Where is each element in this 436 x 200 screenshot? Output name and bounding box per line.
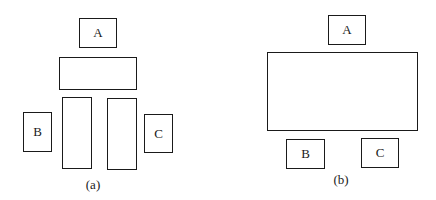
tall-rectangle-right [107,98,137,170]
large-rectangle [267,52,418,131]
box-a: A [328,15,366,45]
label-a: A [93,25,102,41]
tall-rectangle-left [62,97,92,169]
caption-b: (b) [333,172,348,188]
box-b: B [23,112,52,152]
caption-a: (a) [86,177,100,193]
label-a: A [342,22,351,38]
label-b: B [33,124,42,140]
wide-rectangle [59,57,137,90]
box-c: C [144,114,173,153]
box-c: C [361,138,399,168]
label-b: B [301,146,310,162]
box-b: B [286,139,325,169]
label-c: C [154,126,163,142]
label-c: C [376,145,385,161]
box-a: A [79,18,117,48]
